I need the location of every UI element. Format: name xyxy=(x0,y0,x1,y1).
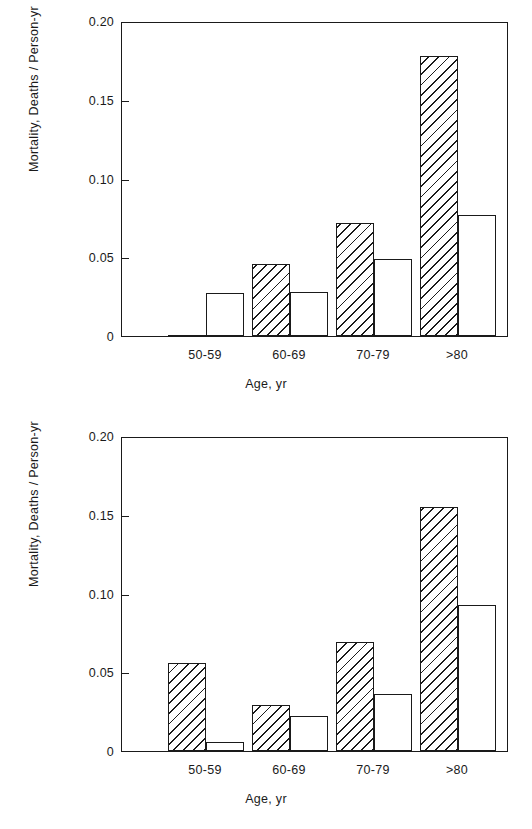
x-axis-tick-label: 70-79 xyxy=(328,348,418,362)
bar-hatched-7079 xyxy=(336,642,374,751)
bar-hatched-5059 xyxy=(168,335,206,336)
bars-layer xyxy=(122,23,507,336)
y-axis-tick-label: 0.05 xyxy=(40,666,114,680)
y-axis-tick-label-text: 0 xyxy=(107,745,114,759)
x-axis-title: Age, yr xyxy=(0,792,532,806)
y-axis-tick-label: 0 xyxy=(40,330,114,344)
bar-open-7079 xyxy=(374,259,412,336)
y-axis-tick-label-text: 0.15 xyxy=(89,509,114,523)
y-axis-tick xyxy=(121,180,129,181)
y-axis-title: Mortality, Deaths / Person-yr xyxy=(27,384,41,624)
x-axis-tick-label: 50-59 xyxy=(160,763,250,777)
bar-open-6069 xyxy=(290,292,328,336)
bar-open-80 xyxy=(458,215,496,336)
y-axis-tick xyxy=(121,258,129,259)
bar-open-5059 xyxy=(206,742,244,751)
y-axis-tick-label-text: 0.05 xyxy=(89,666,114,680)
y-axis-tick xyxy=(121,516,129,517)
y-axis-tick-label: 0.20 xyxy=(40,15,114,29)
x-axis-tick-label: >80 xyxy=(412,348,502,362)
bars-layer xyxy=(122,438,507,751)
y-axis-tick-label: 0.05 xyxy=(40,251,114,265)
bar-hatched-7079 xyxy=(336,223,374,336)
y-axis-tick-label: 0.10 xyxy=(40,173,114,187)
y-axis-tick-label-text: 0.20 xyxy=(89,430,114,444)
y-axis-tick-label-text: 0.20 xyxy=(89,15,114,29)
y-axis-tick xyxy=(121,101,129,102)
y-axis-tick-label: 0.15 xyxy=(40,509,114,523)
y-axis-title: Mortality, Deaths / Person-yr xyxy=(27,0,41,209)
chart-panel-bottom: 00.050.100.150.20Mortality, Deaths / Per… xyxy=(0,415,532,829)
bar-open-6069 xyxy=(290,716,328,751)
x-axis-tick-label: 70-79 xyxy=(328,763,418,777)
bar-open-80 xyxy=(458,605,496,751)
y-axis-tick-label: 0.15 xyxy=(40,94,114,108)
x-axis-tick-label: 60-69 xyxy=(244,763,334,777)
y-axis-tick xyxy=(121,673,129,674)
y-axis-tick-label-text: 0.15 xyxy=(89,94,114,108)
y-axis-tick xyxy=(121,595,129,596)
y-axis-tick-label: 0.20 xyxy=(40,430,114,444)
bar-hatched-80 xyxy=(420,56,458,336)
x-axis-tick-label: >80 xyxy=(412,763,502,777)
y-axis-tick-label: 0.10 xyxy=(40,588,114,602)
y-axis-tick-label: 0 xyxy=(40,745,114,759)
y-axis-tick-label-text: 0.10 xyxy=(89,173,114,187)
chart-panel-top: 00.050.100.150.20Mortality, Deaths / Per… xyxy=(0,0,532,414)
bar-open-5059 xyxy=(206,293,244,336)
bar-hatched-5059 xyxy=(168,663,206,751)
x-axis-tick-label: 60-69 xyxy=(244,348,334,362)
x-axis-tick-label: 50-59 xyxy=(160,348,250,362)
y-axis-tick-label-text: 0.05 xyxy=(89,251,114,265)
y-axis-tick-label-text: 0 xyxy=(107,330,114,344)
bar-hatched-6069 xyxy=(252,264,290,336)
bar-hatched-80 xyxy=(420,507,458,751)
bar-hatched-6069 xyxy=(252,705,290,751)
y-axis-tick-label-text: 0.10 xyxy=(89,588,114,602)
plot-frame xyxy=(121,437,508,752)
plot-frame xyxy=(121,22,508,337)
x-axis-title: Age, yr xyxy=(0,377,532,391)
bar-open-7079 xyxy=(374,694,412,751)
